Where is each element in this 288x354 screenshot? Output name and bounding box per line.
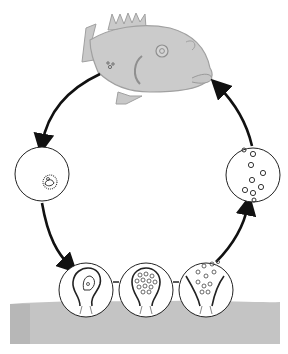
stage-dividing-circle	[119, 263, 173, 317]
fish-host	[82, 13, 212, 104]
arrow-tomites-to-theronts	[216, 205, 248, 262]
life-cycle-diagram	[0, 0, 288, 354]
cycle-arrows	[42, 74, 252, 266]
arrow-theronts-to-fish	[218, 86, 252, 146]
stage-bursting-circle	[179, 260, 233, 317]
stage-cyst-circle	[15, 147, 69, 201]
stage-theronts-circle	[226, 148, 280, 202]
arrow-fish-to-cyst	[42, 74, 100, 144]
cyst-icon	[43, 175, 57, 189]
arrow-cyst-to-tomont	[42, 203, 70, 266]
stage-tomont-circle	[59, 263, 113, 317]
